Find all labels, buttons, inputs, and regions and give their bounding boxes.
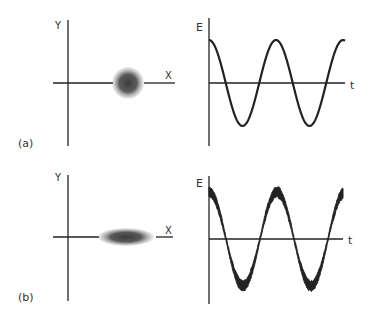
- panel-a-e-label: E: [196, 21, 203, 34]
- panel-a-t-label: t: [350, 79, 355, 92]
- panel-b-e-label: E: [196, 177, 203, 190]
- panel-b-y-label: Y: [54, 172, 62, 183]
- panel-a-circular-spot: [112, 67, 144, 99]
- panel-a-spot-plot: Y X (a): [18, 20, 175, 150]
- panel-b-spot-plot: Y X (b): [18, 172, 173, 304]
- panel-b-elliptical-spot: [98, 228, 154, 246]
- panel-a-label: (a): [18, 137, 33, 150]
- panel-b-field-plot: E t: [196, 176, 353, 304]
- panel-a-field-plot: E t: [196, 18, 355, 146]
- panel-b-x-label: X: [165, 225, 172, 236]
- panel-b-t-label: t: [348, 234, 353, 247]
- panel-b-label: (b): [18, 291, 34, 304]
- figure: Y X (a) E t Y X (b) E t: [0, 0, 371, 320]
- panel-a-y-label: Y: [54, 20, 62, 31]
- panel-a-x-label: X: [165, 70, 172, 81]
